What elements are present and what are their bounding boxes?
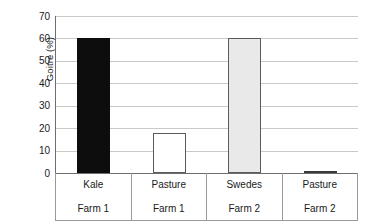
y-axis-tick-labels: 706050403020100 bbox=[26, 10, 50, 174]
bar-swedes-farm-2 bbox=[228, 38, 261, 173]
y-tick-label: 0 bbox=[26, 168, 50, 179]
y-tick-label: 50 bbox=[26, 55, 50, 66]
bars-layer bbox=[56, 16, 358, 173]
category-farm-label: Farm 1 bbox=[132, 197, 207, 220]
category-farm-label: Farm 2 bbox=[207, 197, 282, 220]
bar-kale-farm-1 bbox=[77, 38, 110, 173]
y-tick-label: 40 bbox=[26, 78, 50, 89]
category-crop-label: Pasture bbox=[132, 173, 207, 197]
category-farm-label: Farm 1 bbox=[56, 197, 131, 220]
y-tick-label: 70 bbox=[26, 11, 50, 22]
category-farm-label: Farm 2 bbox=[283, 197, 358, 220]
bar-chart: Goitre (%) 706050403020100 KaleFarm 1Pas… bbox=[0, 0, 380, 223]
y-tick-label: 60 bbox=[26, 33, 50, 44]
bar-pasture-farm-1 bbox=[153, 133, 186, 173]
category-crop-label: Swedes bbox=[207, 173, 282, 197]
category-cell: PastureFarm 2 bbox=[283, 173, 358, 220]
category-cell: KaleFarm 1 bbox=[56, 173, 132, 220]
plot-area bbox=[55, 16, 358, 174]
y-tick-label: 30 bbox=[26, 100, 50, 111]
category-crop-label: Kale bbox=[56, 173, 131, 197]
y-tick-label: 10 bbox=[26, 145, 50, 156]
category-crop-label: Pasture bbox=[283, 173, 358, 197]
category-cell: PastureFarm 1 bbox=[132, 173, 208, 220]
category-cell: SwedesFarm 2 bbox=[207, 173, 283, 220]
category-axis-table: KaleFarm 1PastureFarm 1SwedesFarm 2Pastu… bbox=[55, 173, 358, 221]
y-tick-label: 20 bbox=[26, 123, 50, 134]
